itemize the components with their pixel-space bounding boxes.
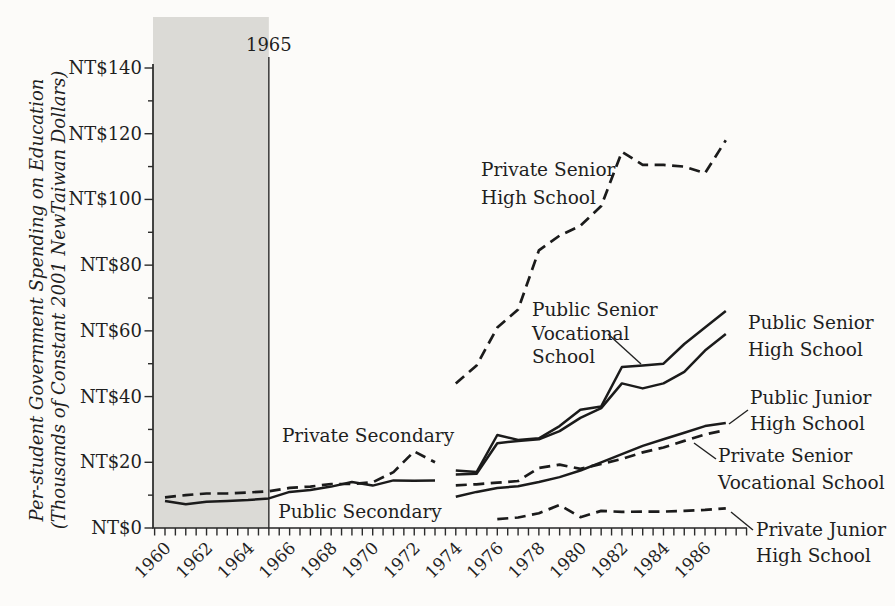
- x-axis-ticks: 1960196219641966196819701972197419761978…: [130, 528, 746, 582]
- y-tick-label: NT$80: [80, 254, 142, 275]
- public-senior-vocational-label: Public SeniorVocationalSchool: [531, 299, 658, 367]
- line-chart: 1965NT$0NT$20NT$40NT$60NT$80NT$100NT$120…: [0, 0, 895, 606]
- private-senior-high-label-line2: High School: [481, 187, 596, 208]
- public-senior-high-label-line1: Public Senior: [748, 312, 874, 333]
- public-senior-high-label: Public SeniorHigh School: [748, 312, 874, 360]
- private-junior-high-label-line2: High School: [756, 545, 871, 566]
- public-senior-vocational-label-line3: School: [532, 346, 595, 367]
- public-junior-high-label-line1: Public Junior: [750, 387, 872, 408]
- public-senior-vocational-label-line1: Public Senior: [532, 299, 658, 320]
- public-secondary-label-line1: Public Secondary: [278, 501, 442, 522]
- x-tick-label: 1976: [462, 538, 507, 583]
- private-senior-vocational-label-leader-line: [694, 443, 716, 459]
- x-tick-label: 1986: [670, 538, 715, 583]
- y-tick-label: NT$40: [80, 386, 142, 407]
- y-tick-label: NT$140: [68, 57, 142, 78]
- y-axis-ticks: NT$0NT$20NT$40NT$60NT$80NT$100NT$120NT$1…: [68, 57, 153, 538]
- private-secondary-label: Private Secondary: [282, 425, 455, 446]
- series-line-public-junior-high: [456, 423, 726, 497]
- private-senior-high-label: Private SeniorHigh School: [481, 159, 616, 208]
- y-axis-title: Per-student Government Spending on Educa…: [26, 70, 70, 530]
- series-annotations: Private SecondaryPublic SecondaryPrivate…: [278, 159, 886, 566]
- y-tick-label: NT$60: [80, 320, 142, 341]
- x-tick-label: 1964: [213, 538, 258, 583]
- x-tick-label: 1978: [504, 538, 549, 583]
- public-junior-high-label-leader-line: [729, 410, 748, 424]
- y-tick-label: NT$20: [80, 451, 142, 472]
- private-senior-vocational-label: Private SeniorVocational School: [717, 445, 885, 493]
- y-tick-label: NT$0: [91, 517, 142, 538]
- public-senior-high-label-line2: High School: [748, 339, 863, 360]
- y-axis-title-line2: (Thousands of Constant 2001 NewTaiwan Do…: [48, 70, 70, 530]
- x-tick-label: 1962: [172, 538, 217, 583]
- x-tick-label: 1960: [130, 538, 175, 583]
- private-secondary-label-line1: Private Secondary: [282, 425, 455, 446]
- x-tick-label: 1984: [629, 538, 674, 583]
- shaded-region-1960-1965: [153, 17, 269, 528]
- x-tick-label: 1972: [379, 538, 424, 583]
- private-junior-high-label-line1: Private Junior: [756, 519, 886, 540]
- private-senior-vocational-label-line2: Vocational School: [717, 472, 885, 493]
- y-tick-label: NT$100: [68, 188, 142, 209]
- shaded-region-label: 1965: [246, 34, 292, 55]
- private-junior-high-label: Private JuniorHigh School: [756, 519, 886, 566]
- x-tick-label: 1980: [545, 538, 590, 583]
- x-tick-label: 1966: [255, 538, 300, 583]
- public-secondary-label: Public Secondary: [278, 501, 442, 522]
- chart-figure: Per-student Government Spending on Educa…: [0, 0, 895, 606]
- x-tick-label: 1968: [296, 538, 341, 583]
- public-junior-high-label: Public JuniorHigh School: [750, 387, 872, 434]
- private-senior-vocational-label-line1: Private Senior: [718, 445, 853, 466]
- private-senior-high-label-line1: Private Senior: [481, 159, 616, 180]
- x-tick-label: 1974: [421, 538, 466, 583]
- series-line-private-junior-high: [497, 505, 726, 519]
- public-junior-high-label-line2: High School: [750, 413, 865, 434]
- y-axis-title-line1: Per-student Government Spending on Educa…: [26, 70, 48, 530]
- y-tick-label: NT$120: [68, 123, 142, 144]
- x-tick-label: 1982: [587, 538, 632, 583]
- x-tick-label: 1970: [338, 538, 383, 583]
